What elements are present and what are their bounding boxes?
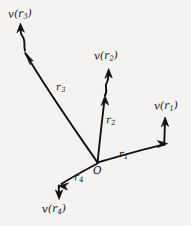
label-velocity-r1: v(r1) [154,99,179,112]
vector-v-r1 [161,117,168,145]
label-r2: r2 [106,115,116,127]
vector-r1-shaft [98,145,165,163]
vector-r3 [25,52,98,163]
label-velocity-r4-open: v(r [42,202,57,215]
vector-r2-shaft [98,99,105,163]
label-velocity-r2: v(r2) [94,49,119,62]
label-velocity-r4: v(r4) [42,203,66,216]
label-origin: O [93,165,102,176]
label-r2-subscript: 2 [111,119,116,127]
label-r4-subscript: 4 [79,175,84,183]
vector-v-r2 [105,69,112,96]
figure-canvas [0,0,191,226]
vector-v-r3 [17,23,25,50]
label-r1-subscript: 1 [124,153,129,161]
label-velocity-r2-close: ) [113,48,118,60]
label-r1: r1 [119,149,129,161]
label-velocity-r4-close: ) [62,202,67,214]
label-velocity-r1-open: v(r [154,99,170,112]
vector-r1-arrowhead [157,141,167,148]
label-velocity-r3-open: v(r [8,7,24,20]
label-r3: r3 [55,82,65,95]
label-r4: r4 [73,172,83,185]
label-velocity-r1-close: ) [173,98,178,110]
vector-r2 [98,95,109,162]
label-velocity-r3: v(r3) [8,7,33,21]
vector-r3-shaft [26,54,98,163]
label-velocity-r3-close: ) [27,6,32,18]
label-r3-subscript: 3 [61,85,66,93]
vector-r1 [98,141,168,163]
label-velocity-r2-open: v(r [94,49,110,62]
vector-field-figure: v(r3) v(r2) v(r1) v(r4) r3 r2 r1 r4 O [0,0,191,226]
